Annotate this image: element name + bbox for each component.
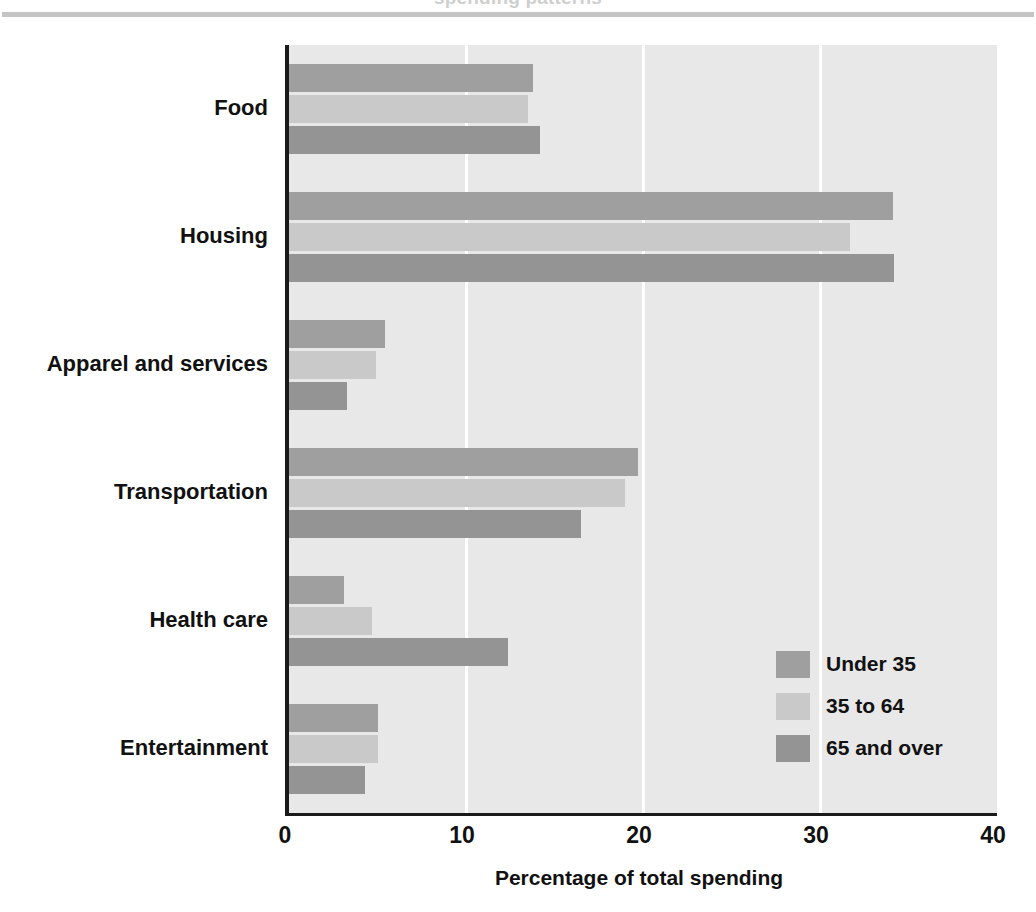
bar	[289, 448, 638, 476]
bar	[289, 254, 894, 282]
x-tick-label: 40	[963, 822, 1023, 849]
x-tick-label: 0	[255, 822, 315, 849]
category-label: Health care	[0, 607, 268, 633]
chart-legend: Under 3535 to 6465 and over	[776, 645, 986, 771]
category-label: Housing	[0, 223, 268, 249]
legend-label: Under 35	[826, 652, 916, 676]
legend-item: 35 to 64	[776, 687, 986, 725]
bar	[289, 95, 528, 123]
gridline-20	[642, 45, 645, 813]
legend-item: 65 and over	[776, 729, 986, 767]
category-label: Entertainment	[0, 735, 268, 761]
bar	[289, 192, 893, 220]
bar	[289, 510, 581, 538]
gridline-10	[465, 45, 468, 813]
bar	[289, 735, 378, 763]
x-tick-label: 20	[609, 822, 669, 849]
legend-swatch-icon	[776, 693, 810, 720]
bar	[289, 638, 508, 666]
x-tick-label: 30	[786, 822, 846, 849]
bar	[289, 766, 365, 794]
category-label: Food	[0, 95, 268, 121]
x-axis-label: Percentage of total spending	[285, 866, 993, 890]
bar	[289, 479, 625, 507]
legend-swatch-icon	[776, 651, 810, 678]
bar	[289, 382, 347, 410]
legend-label: 65 and over	[826, 736, 943, 760]
bar	[289, 223, 850, 251]
bar	[289, 64, 533, 92]
bar	[289, 704, 378, 732]
legend-swatch-icon	[776, 735, 810, 762]
bar	[289, 576, 344, 604]
bar	[289, 607, 372, 635]
legend-item: Under 35	[776, 645, 986, 683]
category-axis-labels: FoodHousingApparel and servicesTransport…	[0, 0, 268, 912]
category-label: Transportation	[0, 479, 268, 505]
bar	[289, 351, 376, 379]
bar	[289, 320, 385, 348]
bar	[289, 126, 540, 154]
category-label: Apparel and services	[0, 351, 268, 377]
legend-label: 35 to 64	[826, 694, 904, 718]
x-tick-label: 10	[432, 822, 492, 849]
bar-chart: FoodHousingApparel and servicesTransport…	[0, 0, 1036, 912]
